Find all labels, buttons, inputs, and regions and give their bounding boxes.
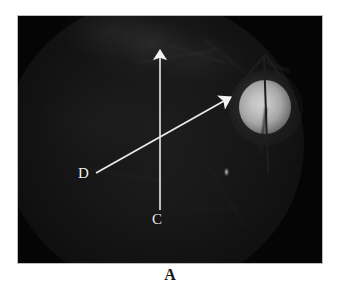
fundus-photograph: D C [18,16,322,263]
figure-panel: D C A [0,0,340,286]
annotation-label-d: D [78,166,89,181]
macular-reflex-spot [224,168,229,176]
annotation-label-c: C [152,212,162,227]
optic-disc [239,80,291,134]
panel-caption: A [0,265,340,285]
